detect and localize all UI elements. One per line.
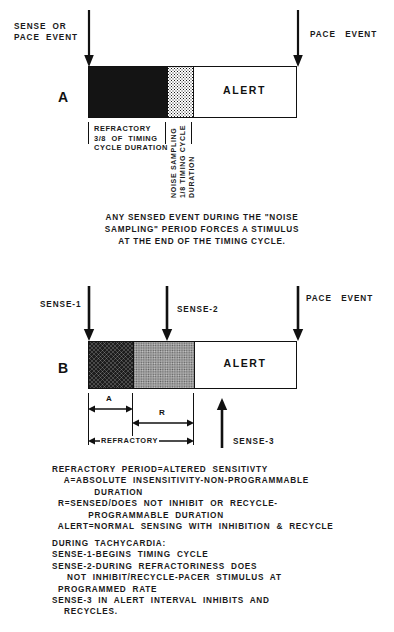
- panel-b-measure-r-label: R: [159, 408, 165, 417]
- panel-b-divider-1: [133, 342, 134, 388]
- panel-b-pace-event-label: PACE EVENT: [306, 294, 373, 305]
- panel-a-refractory-segment: [89, 67, 167, 117]
- panel-a-refractory-label: REFRACTORY 3/8 OF TIMING CYCLE DURATION: [94, 124, 168, 153]
- panel-b-timing-bar: ALERT: [88, 341, 297, 389]
- panel-b-sense1-arrow: [82, 286, 96, 342]
- panel-a-noise-cycle-label-line1: 1/8 TIMING CYCLE: [179, 125, 186, 198]
- panel-b-measure-a-arrow: [88, 404, 133, 414]
- panel-a-left-event-arrow: [82, 10, 96, 68]
- panel-b-measure-a-label: A: [106, 394, 112, 403]
- panel-b-sense3-arrow: [215, 398, 229, 448]
- panel-b-measure-r-arrow: [132, 418, 194, 428]
- panel-a-right-event-arrow: [291, 10, 305, 68]
- panel-a-timing-bar: ALERT: [88, 66, 297, 118]
- panel-b-legend-text: REFRACTORY PERIOD=ALTERED SENSITIVTY A=A…: [52, 464, 382, 532]
- panel-b-relative-refractory-segment: [133, 342, 194, 388]
- panel-b-pace-event-arrow: [291, 286, 305, 342]
- panel-a-caption: ANY SENSED EVENT DURING THE "NOISE SAMPL…: [57, 212, 347, 247]
- panel-b-sense1-label: SENSE-1: [40, 300, 81, 311]
- panel-b-sense2-arrow: [160, 286, 174, 342]
- panel-a-right-event-label: PACE EVENT: [310, 30, 377, 41]
- figure-canvas: SENSE OR PACE EVENT PACE EVENT A ALERT R…: [0, 0, 394, 632]
- panel-b-absolute-refractory-segment: [89, 342, 133, 388]
- panel-a-tick-noise-end: [191, 122, 192, 144]
- panel-a-divider-2: [193, 67, 194, 117]
- panel-a-left-event-label: SENSE OR PACE EVENT: [14, 22, 78, 43]
- panel-b-alert-label: ALERT: [194, 357, 296, 369]
- panel-b-sense2-label: SENSE-2: [177, 305, 218, 316]
- panel-b-letter: B: [58, 360, 69, 376]
- panel-b-tachycardia-text: DURING TACHYCARDIA: SENSE-1-BEGINS TIMIN…: [52, 538, 382, 618]
- panel-a-divider-1: [167, 67, 168, 117]
- panel-b-refractory-span-label: REFRACTORY: [100, 436, 159, 446]
- panel-a-noise-sampling-segment: [167, 67, 193, 117]
- panel-b-alert-segment: ALERT: [194, 342, 296, 388]
- panel-a-letter: A: [58, 89, 69, 105]
- panel-a-noise-cycle-label-line2: DURATION: [188, 156, 195, 198]
- panel-b-sense3-label: SENSE-3: [233, 437, 274, 448]
- panel-a-alert-label: ALERT: [193, 84, 296, 96]
- panel-a-tick-start: [88, 122, 89, 144]
- panel-a-noise-sampling-label: NOISE SAMPLING: [170, 128, 177, 198]
- panel-b-divider-2: [194, 342, 195, 388]
- panel-a-alert-segment: ALERT: [193, 67, 296, 117]
